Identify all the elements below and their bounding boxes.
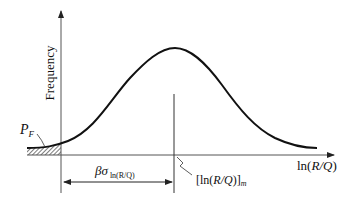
failure-probability-label: PF xyxy=(19,122,35,139)
median-leader-line xyxy=(177,157,192,175)
y-axis-label: Frequency xyxy=(42,45,57,100)
lognormal-frequency-diagram: Frequency PF βσln(R/Q) [ln(R/Q)]m ln(R/Q… xyxy=(0,0,359,205)
density-curve xyxy=(27,48,317,148)
median-label: [ln(R/Q)]m xyxy=(196,173,247,188)
dimension-label: βσln(R/Q) xyxy=(94,163,135,180)
pf-leader-line xyxy=(37,134,45,147)
x-axis-label: ln(R/Q) xyxy=(297,158,337,173)
